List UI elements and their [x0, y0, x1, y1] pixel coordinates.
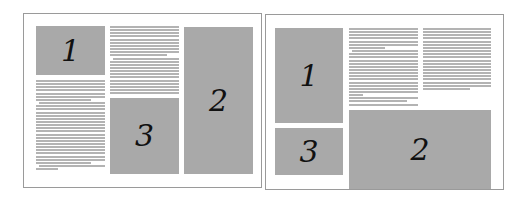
text-line	[349, 31, 418, 33]
text-line	[349, 78, 418, 80]
text-line	[423, 88, 470, 90]
text-line	[349, 94, 363, 96]
text-line	[349, 104, 418, 106]
text-line	[423, 66, 491, 68]
text-line	[110, 67, 179, 69]
text-line	[36, 99, 91, 101]
text-line	[423, 53, 491, 55]
text-line	[39, 165, 105, 167]
text-column-a	[349, 28, 418, 107]
text-line	[349, 69, 418, 71]
image-box-3: 3	[275, 128, 343, 175]
text-line	[423, 44, 491, 46]
text-line	[36, 156, 105, 158]
text-line	[36, 112, 105, 114]
text-line	[110, 61, 179, 63]
text-line	[36, 124, 105, 126]
text-line	[349, 63, 418, 65]
text-line	[113, 58, 179, 60]
box-label: 2	[410, 135, 429, 165]
text-line	[110, 32, 179, 34]
text-line	[36, 146, 105, 148]
text-line	[349, 100, 407, 102]
text-line	[36, 162, 91, 164]
text-line	[349, 47, 385, 49]
text-column-left	[36, 80, 105, 171]
text-line	[36, 134, 105, 136]
text-line	[349, 41, 418, 43]
text-line	[423, 85, 491, 87]
text-column-b	[423, 28, 491, 91]
text-line	[349, 66, 418, 68]
text-line	[423, 34, 491, 36]
text-line	[110, 26, 179, 28]
text-line	[110, 92, 179, 94]
text-line	[110, 89, 179, 91]
text-line	[349, 37, 418, 39]
text-line	[36, 127, 105, 129]
text-line	[349, 60, 418, 62]
image-box-1: 1	[275, 28, 343, 123]
image-box-2: 2	[349, 110, 491, 189]
text-line	[423, 28, 491, 30]
text-line	[423, 31, 491, 33]
text-line	[110, 35, 179, 37]
text-line	[349, 44, 418, 46]
text-line	[423, 60, 491, 62]
text-line	[110, 45, 179, 47]
text-line	[349, 91, 418, 93]
text-line	[349, 56, 418, 58]
text-line	[110, 86, 179, 88]
text-line	[423, 41, 491, 43]
text-line	[36, 80, 105, 82]
text-line	[110, 73, 179, 75]
text-line	[36, 137, 105, 139]
text-line	[36, 140, 105, 142]
box-label: 3	[299, 137, 318, 167]
text-line	[36, 86, 105, 88]
text-line	[423, 78, 491, 80]
text-line	[423, 82, 491, 84]
text-line	[110, 54, 167, 56]
text-line	[39, 102, 105, 104]
text-line	[349, 72, 418, 74]
text-line	[352, 50, 418, 52]
image-box-2: 2	[184, 27, 253, 174]
text-line	[423, 69, 491, 71]
text-line	[349, 34, 418, 36]
text-line	[36, 149, 105, 151]
box-label: 1	[299, 61, 318, 91]
text-line	[36, 108, 105, 110]
text-line	[110, 70, 179, 72]
text-line	[36, 143, 105, 145]
image-box-3: 3	[110, 98, 179, 174]
image-box-1: 1	[36, 26, 105, 75]
text-line	[110, 80, 179, 82]
text-line	[423, 63, 491, 65]
text-line	[110, 76, 179, 78]
text-line	[36, 105, 105, 107]
text-line	[36, 168, 58, 170]
text-line	[110, 29, 179, 31]
box-label: 2	[209, 86, 228, 116]
text-line	[423, 37, 491, 39]
text-line	[36, 115, 105, 117]
text-line	[423, 56, 491, 58]
text-line	[110, 48, 179, 50]
text-line	[110, 51, 179, 53]
text-line	[110, 42, 179, 44]
text-line	[349, 97, 418, 99]
text-line	[36, 89, 105, 91]
box-label: 3	[135, 121, 154, 151]
text-line	[36, 130, 105, 132]
text-line	[36, 83, 105, 85]
text-line	[110, 83, 179, 85]
text-line	[36, 121, 105, 123]
text-line	[349, 88, 418, 90]
text-line	[423, 47, 491, 49]
text-line	[349, 82, 418, 84]
text-line	[349, 53, 418, 55]
text-line	[423, 50, 491, 52]
text-line	[36, 93, 105, 95]
box-label: 1	[61, 36, 80, 66]
